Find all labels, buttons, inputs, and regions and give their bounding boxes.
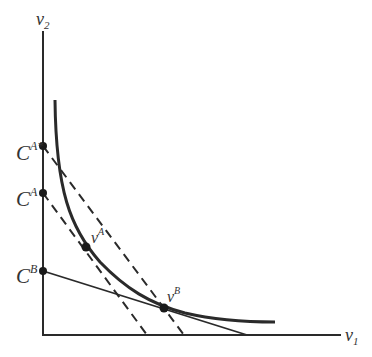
label-va: vA xyxy=(91,226,105,246)
label-cb: CB xyxy=(16,262,38,288)
point-va xyxy=(82,243,91,252)
point-ca xyxy=(39,189,47,197)
y-axis-label: v2 xyxy=(36,9,50,31)
diagram-canvas: v2 v1 CA* CA CB vA vB xyxy=(0,0,372,357)
label-vb: vB xyxy=(167,285,180,305)
label-ca: CA xyxy=(16,185,38,211)
budget-line-ca xyxy=(43,193,147,335)
indifference-curve xyxy=(55,100,275,322)
budget-line-cb xyxy=(43,271,247,335)
label-ca-star: CA* xyxy=(16,139,43,165)
x-axis-label: v1 xyxy=(345,325,359,347)
point-cb xyxy=(39,267,47,275)
